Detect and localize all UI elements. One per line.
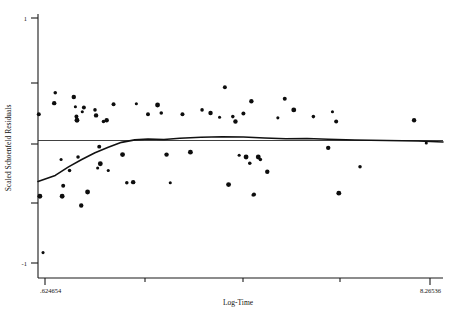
data-point <box>169 181 172 184</box>
data-point <box>74 105 77 108</box>
data-point <box>331 110 334 113</box>
data-point <box>68 169 72 173</box>
data-point <box>97 145 101 149</box>
data-point <box>53 91 57 95</box>
data-point <box>259 158 263 162</box>
data-point <box>412 118 416 122</box>
data-point <box>164 152 168 156</box>
x-tick-label-right: 8.26536 <box>420 287 442 294</box>
data-point <box>112 102 116 106</box>
data-point <box>252 192 256 196</box>
data-point <box>180 112 184 116</box>
data-point <box>226 182 231 187</box>
data-point <box>81 110 84 113</box>
scatter-plot-figure: 1 -1 .624654 8.26536 Log-Time Scaled Sch… <box>0 0 453 309</box>
data-point <box>104 118 108 122</box>
data-point <box>218 116 221 119</box>
y-tick-label-top: 1 <box>24 15 27 22</box>
data-point <box>94 113 98 117</box>
data-point <box>312 115 316 119</box>
x-axis-title: Log-Time <box>223 298 254 307</box>
data-point <box>37 112 41 116</box>
data-point <box>358 165 362 169</box>
data-point <box>326 146 330 150</box>
data-point <box>276 116 279 119</box>
data-point <box>79 203 83 207</box>
data-point <box>76 155 80 159</box>
data-point <box>200 108 204 112</box>
data-point <box>159 111 163 115</box>
data-point <box>72 95 76 99</box>
data-point <box>85 190 90 195</box>
data-point <box>82 105 86 109</box>
data-point <box>135 102 138 105</box>
y-tick-label-bottom: -1 <box>22 260 27 267</box>
data-point <box>155 103 160 108</box>
data-point <box>60 158 63 161</box>
data-point <box>75 118 80 123</box>
data-point <box>248 161 252 165</box>
plot-canvas: 1 -1 .624654 8.26536 Log-Time Scaled Sch… <box>0 0 453 309</box>
data-point <box>37 194 42 199</box>
data-point <box>42 251 45 254</box>
data-point <box>61 184 65 188</box>
data-point <box>125 181 129 185</box>
data-point <box>107 169 110 172</box>
data-point <box>98 161 103 166</box>
data-point <box>60 194 65 199</box>
data-point <box>233 119 237 123</box>
data-point <box>120 152 125 157</box>
data-point <box>188 150 193 155</box>
data-point <box>334 120 338 124</box>
data-point <box>283 97 287 101</box>
data-point <box>265 170 269 174</box>
data-point <box>208 111 212 115</box>
data-point <box>249 99 253 103</box>
figure-background <box>0 0 453 309</box>
data-point <box>146 112 150 116</box>
data-point <box>93 108 97 112</box>
data-point <box>291 107 296 112</box>
data-point <box>244 155 249 160</box>
data-point <box>336 191 341 196</box>
y-axis-title: Scaled Schoenfeld Residuals <box>4 105 13 192</box>
x-tick-label-left: .624654 <box>40 287 62 294</box>
data-point <box>238 154 241 157</box>
data-point <box>231 115 235 119</box>
data-point <box>52 101 56 105</box>
data-point <box>96 167 99 170</box>
data-point <box>223 85 227 89</box>
data-point <box>241 112 245 116</box>
data-point <box>131 180 135 184</box>
